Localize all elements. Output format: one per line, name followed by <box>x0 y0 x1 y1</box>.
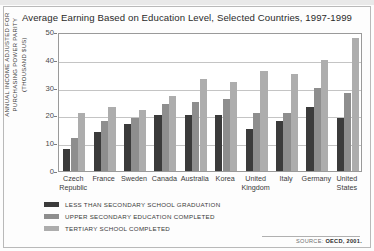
legend-item[interactable]: UPPER SECONDARY EDUCATION COMPLETED <box>44 211 274 222</box>
source-divider <box>262 236 360 237</box>
bar <box>139 110 146 171</box>
x-axis-label-line: States <box>326 184 368 193</box>
y-axis-tick-label: 30 <box>36 85 54 93</box>
source-note: SOURCE: OECD, 2001. <box>296 238 362 244</box>
chart-figure: Average Earning Based on Education Level… <box>0 0 374 251</box>
y-axis-title-line: ANNUAL INCOME ADJUSTED FOR <box>3 1 11 129</box>
x-axis-label: UnitedStates <box>326 175 368 192</box>
bar <box>78 113 85 171</box>
y-axis-tick-label: 10 <box>36 140 54 148</box>
legend-item[interactable]: LESS THAN SECONDARY SCHOOL GRADUATION <box>44 199 274 210</box>
y-axis-tick-label: 40 <box>36 57 54 65</box>
page-title: Average Earning Based on Education Level… <box>0 12 374 23</box>
plot-area <box>58 33 362 172</box>
legend-label: UPPER SECONDARY EDUCATION COMPLETED <box>65 213 215 220</box>
gridline <box>59 62 361 63</box>
bar <box>253 113 260 171</box>
x-axis-label-line: Republic <box>52 184 94 193</box>
y-axis-tick-mark <box>54 89 57 90</box>
legend-swatch-icon <box>44 202 59 207</box>
legend-label: LESS THAN SECONDARY SCHOOL GRADUATION <box>65 201 220 208</box>
bar <box>101 121 108 171</box>
bar <box>352 38 359 171</box>
y-axis-ticks: 01020304050 <box>34 33 54 172</box>
bar <box>108 107 115 171</box>
bar <box>169 96 176 171</box>
bar <box>276 121 283 171</box>
bar <box>344 93 351 171</box>
bar <box>223 99 230 171</box>
y-axis-tick-label: 20 <box>36 112 54 120</box>
y-axis-title: ANNUAL INCOME ADJUSTED FORPURCHASING POW… <box>3 1 28 129</box>
legend-label: TERTIARY SCHOOL COMPLETED <box>65 225 170 232</box>
bar <box>230 82 237 171</box>
bar <box>131 118 138 171</box>
legend-swatch-icon <box>44 214 59 219</box>
bar <box>215 115 222 171</box>
bar <box>63 149 70 171</box>
bar <box>192 102 199 172</box>
source-label: SOURCE: <box>296 238 324 244</box>
bar <box>321 60 328 171</box>
bar <box>283 113 290 171</box>
bar <box>260 71 267 171</box>
window-top-strip <box>0 0 374 5</box>
bar <box>71 138 78 171</box>
bar <box>94 132 101 171</box>
y-axis-tick-mark <box>54 61 57 62</box>
chart-legend: LESS THAN SECONDARY SCHOOL GRADUATIONUPP… <box>44 199 274 235</box>
bar <box>162 104 169 171</box>
bar <box>154 115 161 171</box>
bar <box>314 88 321 171</box>
legend-item[interactable]: TERTIARY SCHOOL COMPLETED <box>44 223 274 234</box>
y-axis-tick-mark <box>54 144 57 145</box>
bar <box>246 129 253 171</box>
x-axis-labels: CzechRepublicFranceSwedenCanadaAustralia… <box>58 175 362 197</box>
bar <box>306 107 313 171</box>
bar <box>200 79 207 171</box>
y-axis-title-line: (THOUSAND $US) <box>20 1 28 129</box>
bar <box>337 118 344 171</box>
y-axis-tick-mark <box>54 172 57 173</box>
bar <box>185 115 192 171</box>
source-value: OECD, 2001. <box>325 238 362 244</box>
legend-swatch-icon <box>44 226 59 231</box>
bar <box>291 74 298 171</box>
y-axis-tick-mark <box>54 33 57 34</box>
y-axis-tick-label: 50 <box>36 29 54 37</box>
y-axis-tick-mark <box>54 116 57 117</box>
bar <box>124 124 131 171</box>
y-axis-title-line: PURCHASING POWER PARITY <box>12 1 20 129</box>
x-axis-label-line: Kingdom <box>234 184 276 193</box>
